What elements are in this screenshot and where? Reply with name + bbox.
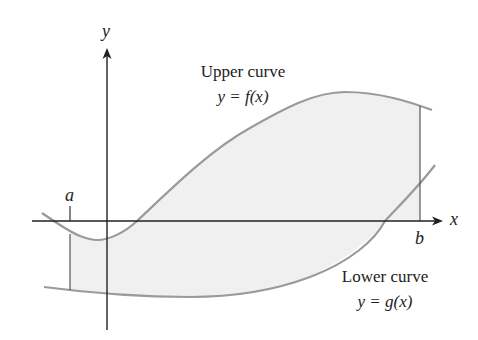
bound-label-b: b <box>415 229 424 247</box>
area-between-curves-diagram: y x a b Upper curve y = f(x) Lower curve… <box>0 0 478 340</box>
lower-curve-equation: y = g(x) <box>358 293 413 310</box>
upper-curve-title: Upper curve <box>201 63 286 80</box>
bound-label-a: a <box>65 186 74 204</box>
y-axis-label: y <box>102 22 110 40</box>
upper-curve-equation: y = f(x) <box>217 88 268 105</box>
x-axis-label: x <box>450 210 458 228</box>
lower-curve-title: Lower curve <box>342 268 428 285</box>
diagram-canvas <box>0 0 478 340</box>
